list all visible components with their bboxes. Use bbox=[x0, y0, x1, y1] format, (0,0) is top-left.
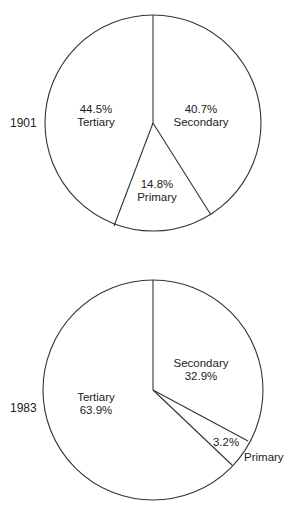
pie-1983-tertiary-pct: 63.9% bbox=[80, 404, 113, 416]
pie-1901-secondary-pct: 40.7% bbox=[185, 103, 218, 115]
pie-1983-secondary-pct: 32.9% bbox=[185, 370, 218, 382]
pie-1983-tertiary-name: Tertiary bbox=[77, 391, 115, 403]
pie-1901-divider-primary-tertiary bbox=[114, 123, 153, 226]
pie-1983-divider-secondary-primary bbox=[153, 390, 248, 441]
pie-1983 bbox=[43, 280, 263, 500]
pie-charts: 44.5% Tertiary 40.7% Secondary 14.8% Pri… bbox=[0, 0, 302, 507]
pie-1901-primary-pct: 14.8% bbox=[141, 178, 174, 190]
pie-1983-primary-pct: 3.2% bbox=[213, 436, 239, 448]
pie-1901-tertiary-name: Tertiary bbox=[77, 116, 115, 128]
pie-1901-primary-name: Primary bbox=[137, 191, 177, 203]
pie-1983-secondary-name: Secondary bbox=[174, 357, 229, 369]
pie-1983-primary-name: Primary bbox=[244, 451, 284, 463]
pie-1901-tertiary-pct: 44.5% bbox=[80, 103, 113, 115]
pie-1901-secondary-name: Secondary bbox=[174, 116, 229, 128]
pie-1983-divider-primary-tertiary bbox=[153, 390, 232, 465]
